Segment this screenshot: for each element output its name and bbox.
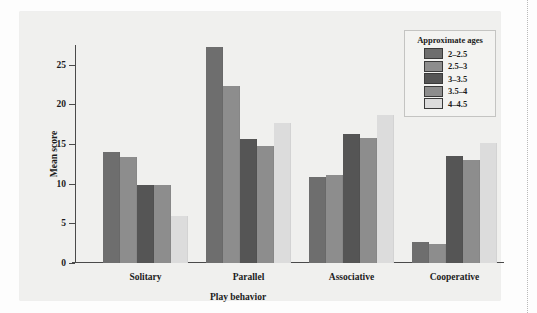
legend-entry: 4–4.5 xyxy=(424,98,490,109)
y-tick-label: 20 xyxy=(57,99,67,109)
legend-label: 4–4.5 xyxy=(448,99,467,109)
bar-group: Solitary xyxy=(103,45,188,263)
legend-label: 2.5–3 xyxy=(448,61,467,71)
bar xyxy=(360,138,377,263)
bar xyxy=(206,47,223,263)
bar xyxy=(326,175,343,263)
chart-legend: Approximate ages 2–2.52.5–33–3.53.5–44–4… xyxy=(404,30,496,117)
legend-swatch xyxy=(424,98,443,109)
x-axis-category-label: Cooperative xyxy=(430,272,480,282)
legend-swatch xyxy=(424,73,443,84)
bar xyxy=(274,123,291,263)
bar xyxy=(309,177,326,263)
legend-entry: 3–3.5 xyxy=(424,73,490,84)
legend-swatch xyxy=(424,48,443,59)
legend-label: 3–3.5 xyxy=(448,74,467,84)
bar-group: Parallel xyxy=(206,45,291,263)
scan-edge-line xyxy=(527,0,528,313)
x-axis-title: Play behavior xyxy=(210,292,266,302)
y-tick-label: 5 xyxy=(61,218,66,228)
legend-label: 3.5–4 xyxy=(448,86,467,96)
legend-entries: 2–2.52.5–33–3.53.5–44–4.5 xyxy=(410,48,490,109)
bar xyxy=(377,115,394,263)
legend-entry: 2–2.5 xyxy=(424,48,490,59)
bar xyxy=(412,242,429,263)
chart-panel: 0510152025 Mean score SolitaryParallelAs… xyxy=(20,12,500,300)
bar xyxy=(223,86,240,263)
page-background: 0510152025 Mean score SolitaryParallelAs… xyxy=(0,0,537,313)
bar xyxy=(240,139,257,263)
bar xyxy=(446,156,463,263)
y-tick-label: 0 xyxy=(61,258,66,268)
legend-entry: 3.5–4 xyxy=(424,86,490,97)
legend-label: 2–2.5 xyxy=(448,49,467,59)
y-tick-label: 10 xyxy=(57,179,67,189)
bar xyxy=(463,160,480,263)
x-axis-category-label: Parallel xyxy=(233,272,265,282)
legend-swatch xyxy=(424,61,443,72)
legend-title: Approximate ages xyxy=(410,35,490,45)
bar xyxy=(137,185,154,263)
x-axis-category-label: Associative xyxy=(329,272,374,282)
bar xyxy=(103,152,120,263)
bar xyxy=(120,157,137,263)
bar xyxy=(429,244,446,263)
y-axis-title: Mean score xyxy=(49,131,59,178)
bar xyxy=(171,216,188,263)
x-axis-category-label: Solitary xyxy=(129,272,161,282)
bar xyxy=(154,185,171,263)
bar-group: Associative xyxy=(309,45,394,263)
y-tick-mark xyxy=(69,263,75,264)
y-tick-label: 25 xyxy=(57,60,67,70)
legend-entry: 2.5–3 xyxy=(424,61,490,72)
bar xyxy=(257,146,274,263)
bar xyxy=(480,143,497,263)
legend-swatch xyxy=(424,86,443,97)
bar xyxy=(343,134,360,263)
